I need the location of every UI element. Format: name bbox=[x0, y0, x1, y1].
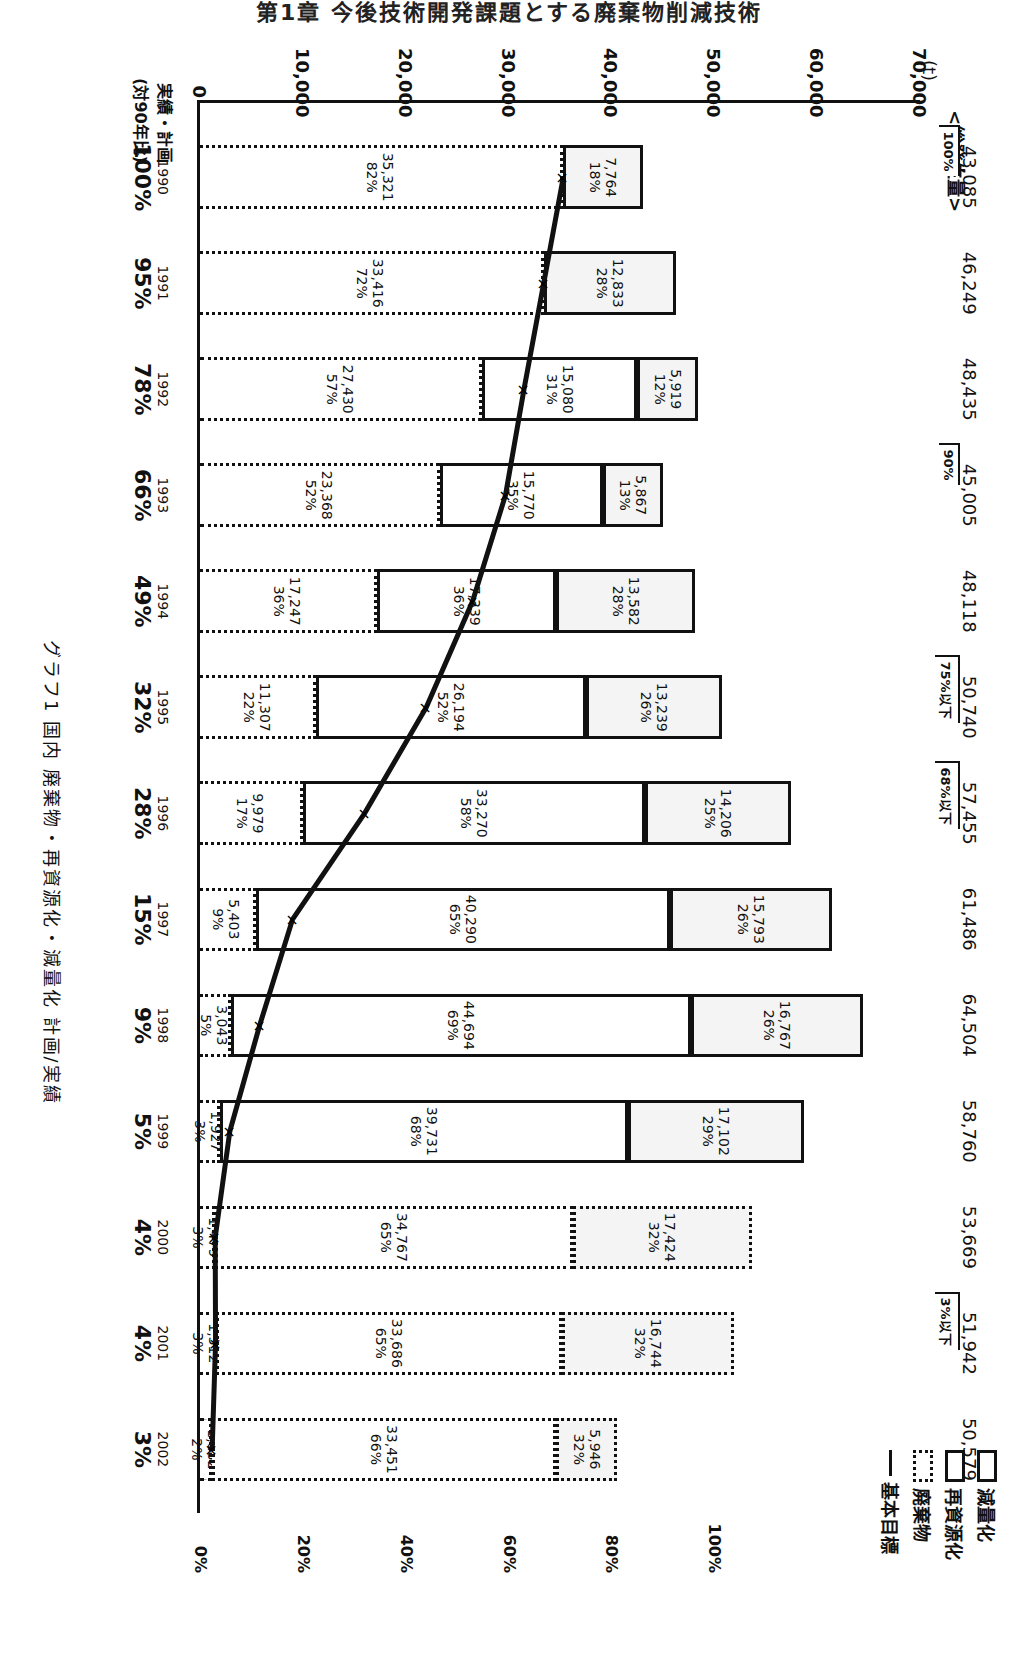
total-label: 51,942 bbox=[959, 1303, 980, 1383]
row-label: 実績・計画 (対90年比) bbox=[130, 63, 178, 163]
y-tick-label: 50,000 bbox=[703, 48, 724, 98]
x-axis-label: 199366% bbox=[130, 455, 171, 535]
chart-stage: (t) <総発生量> 減量化 再資源化 廃棄物 基本目標 010,00020,0… bbox=[0, 0, 1018, 1660]
chart-caption: グラフ1 国内 廃棄物・再資源化・減量化 計画/実績 bbox=[40, 640, 66, 1105]
total-label: 53,669 bbox=[959, 1197, 980, 1277]
total-label: 48,118 bbox=[959, 561, 980, 641]
x-axis-label: 199715% bbox=[130, 879, 171, 959]
rotated-chart: (t) <総発生量> 減量化 再資源化 廃棄物 基本目標 010,00020,0… bbox=[40, 40, 1000, 1600]
svg-text:×: × bbox=[206, 1337, 225, 1350]
y-tick-label: 0 bbox=[189, 48, 210, 98]
svg-text:×: × bbox=[463, 595, 482, 608]
x-axis-label: 20004% bbox=[130, 1197, 171, 1277]
percent-tick-label: 100% bbox=[705, 1524, 724, 1573]
svg-text:×: × bbox=[553, 171, 572, 184]
target-annotation: 100% bbox=[939, 125, 960, 175]
y-tick-label: 10,000 bbox=[292, 48, 313, 98]
total-label: 45,005 bbox=[959, 455, 980, 535]
svg-text:×: × bbox=[250, 1019, 269, 1032]
total-label: 61,486 bbox=[959, 879, 980, 959]
target-annotation: 68%以下 bbox=[935, 761, 960, 828]
total-label: 64,504 bbox=[959, 985, 980, 1065]
svg-text:×: × bbox=[416, 701, 435, 714]
total-label: 57,455 bbox=[959, 773, 980, 853]
x-axis-label: 20023% bbox=[130, 1409, 171, 1489]
y-tick-label: 30,000 bbox=[498, 48, 519, 98]
x-axis-label: 199195% bbox=[130, 243, 171, 323]
y-tick-label: 40,000 bbox=[600, 48, 621, 98]
x-axis-label: 199532% bbox=[130, 667, 171, 747]
plot-area: 010,00020,00030,00040,00050,00060,00070,… bbox=[197, 100, 920, 1513]
x-axis-label: 199449% bbox=[130, 561, 171, 641]
target-annotation: 3%以下 bbox=[935, 1292, 960, 1350]
svg-text:×: × bbox=[283, 913, 302, 926]
svg-text:×: × bbox=[495, 489, 514, 502]
x-axis-label: 19989% bbox=[130, 985, 171, 1065]
total-label: 46,249 bbox=[959, 243, 980, 323]
svg-text:×: × bbox=[355, 807, 374, 820]
x-axis-label: 20014% bbox=[130, 1303, 171, 1383]
x-axis-label: 19995% bbox=[130, 1091, 171, 1171]
total-label: 50,579 bbox=[959, 1409, 980, 1489]
svg-text:×: × bbox=[534, 277, 553, 290]
target-annotation: 75%以下 bbox=[935, 655, 960, 722]
total-label: 58,760 bbox=[959, 1091, 980, 1171]
target-line: ××××××××××××× bbox=[200, 103, 920, 1513]
svg-text:×: × bbox=[202, 1443, 221, 1456]
y-tick-label: 60,000 bbox=[806, 48, 827, 98]
svg-text:×: × bbox=[220, 1125, 239, 1138]
percent-tick-label: 80% bbox=[602, 1535, 621, 1573]
total-label: 48,435 bbox=[959, 349, 980, 429]
x-axis-label: 199278% bbox=[130, 349, 171, 429]
target-annotation: 90% bbox=[939, 443, 960, 484]
percent-tick-label: 60% bbox=[500, 1535, 519, 1573]
legend-swatch-solid bbox=[977, 1450, 997, 1482]
svg-text:×: × bbox=[514, 383, 533, 396]
y-tick-label: 20,000 bbox=[395, 48, 416, 98]
percent-tick-label: 40% bbox=[397, 1535, 416, 1573]
percent-tick-label: 0% bbox=[191, 1546, 210, 1573]
x-axis-label: 199628% bbox=[130, 773, 171, 853]
svg-text:×: × bbox=[205, 1231, 224, 1244]
total-label: 50,740 bbox=[959, 667, 980, 747]
percent-tick-label: 20% bbox=[294, 1535, 313, 1573]
total-label: 43,085 bbox=[959, 137, 980, 217]
y-tick-label: 70,000 bbox=[909, 48, 930, 98]
